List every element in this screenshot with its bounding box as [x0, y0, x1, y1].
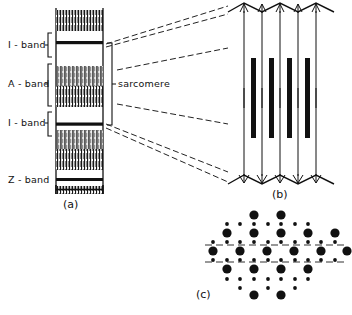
label-sarcomere: sarcomere — [118, 78, 170, 89]
thick-filament-2 — [269, 58, 274, 138]
connector-6 — [106, 128, 228, 182]
diagram-canvas — [0, 0, 352, 315]
connector-4 — [117, 104, 228, 124]
connector-1 — [106, 6, 228, 44]
thick-filament-4 — [305, 58, 310, 138]
connector-3 — [117, 48, 228, 70]
thick-filament-1 — [251, 58, 256, 138]
label-i-band-lower: I - band — [8, 117, 46, 128]
bracket-sarcomere — [107, 43, 116, 125]
z-line-middle — [56, 123, 103, 126]
panel-tag-c: (c) — [196, 288, 211, 301]
panel-a-myofibril — [56, 8, 103, 194]
bracket-i-band-upper — [45, 33, 52, 57]
sarcomere-figure: I - band A - band I - band Z - band sarc… — [0, 0, 352, 315]
bracket-i-band-lower — [45, 112, 52, 136]
panel-c-cross-section — [205, 210, 352, 299]
a-band-striae-lower — [56, 86, 103, 107]
thick-filament-3 — [287, 58, 292, 138]
label-z-band: Z - band — [8, 174, 49, 185]
panel-tag-a: (a) — [63, 198, 78, 211]
connector-5 — [106, 124, 228, 172]
connector-2 — [106, 14, 228, 47]
a-band-striae-upper — [56, 66, 103, 86]
label-i-band-upper: I - band — [8, 39, 46, 50]
panel-tag-b: (b) — [272, 188, 288, 201]
striated-block-top — [56, 10, 103, 31]
label-a-band: A - band — [8, 78, 49, 89]
striated-block-mid-lower — [56, 149, 103, 170]
panel-b-filaments — [228, 3, 334, 184]
z-line-upper — [56, 41, 103, 44]
projection-connectors — [106, 6, 228, 182]
striated-block-mid-upper — [56, 130, 103, 149]
z-line-lower — [56, 178, 103, 181]
